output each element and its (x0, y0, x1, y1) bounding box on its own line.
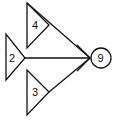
label-middle: 2 (9, 52, 15, 64)
label-target: 9 (98, 52, 104, 64)
flow-diagram: 4 2 3 9 (0, 0, 118, 122)
label-top: 4 (32, 19, 38, 31)
label-bottom: 3 (32, 86, 38, 98)
connector-bottom (49, 58, 90, 92)
